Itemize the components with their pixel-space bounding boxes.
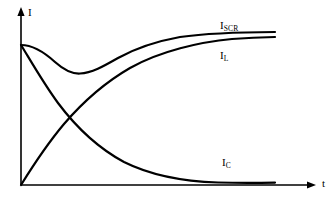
curve-label-ic-subscript: C [226, 161, 231, 170]
curve-il [21, 37, 275, 185]
curve-label-il-subscript: L [224, 54, 229, 63]
curve-label-il: IL [220, 50, 228, 61]
curve-label-ic: IC [222, 157, 231, 168]
curve-label-iscr-subscript: SCR [224, 24, 239, 33]
current-vs-time-figure: I t ISCR IL IC [0, 0, 333, 202]
current-axis [17, 7, 24, 185]
x-axis-label: t [322, 178, 325, 189]
curve-label-iscr: ISCR [220, 20, 238, 31]
y-axis-label: I [28, 7, 32, 18]
plot-area [0, 0, 333, 202]
